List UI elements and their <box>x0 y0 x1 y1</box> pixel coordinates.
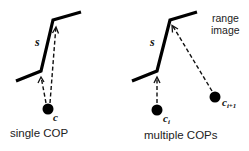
caption-multiple-cops: multiple COPs <box>144 129 218 141</box>
range-image-label-line-2: image <box>211 24 240 36</box>
surface-polyline-left <box>16 12 81 81</box>
right-panel-multiple-cops: s ci ci+1 range image multiple COPs <box>132 12 242 141</box>
cop-label-c: c <box>53 111 58 123</box>
cop-label-c-i-plus-1: ci+1 <box>222 96 236 110</box>
surface-label-left: s <box>34 35 40 49</box>
cop-point-c <box>43 104 54 115</box>
viewing-ray-left-2 <box>50 28 56 103</box>
cop-diagram: s c single COP s ci ci+1 range image mul… <box>0 0 249 151</box>
surface-label-right: s <box>149 35 155 49</box>
cop-label-c-i: ci <box>163 112 170 126</box>
range-image-label: range image <box>211 12 242 36</box>
arrowhead-icon <box>38 77 44 83</box>
viewing-ray-right-2 <box>173 26 212 91</box>
range-image-label-line-1: range <box>212 12 239 24</box>
cop-point-c-i-plus-1 <box>210 92 221 103</box>
surface-polyline-right <box>132 12 197 81</box>
cop-point-c-i <box>152 105 163 116</box>
left-panel-single-cop: s c single COP <box>10 12 81 139</box>
caption-single-cop: single COP <box>10 127 68 139</box>
